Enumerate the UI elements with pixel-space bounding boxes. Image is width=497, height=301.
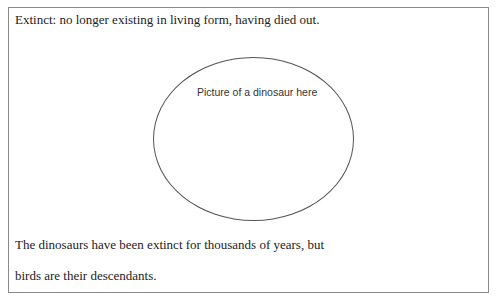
body-text-line-1: The dinosaurs have been extinct for thou… <box>15 237 324 253</box>
picture-placeholder-ellipse <box>153 57 354 221</box>
worksheet-frame: Extinct: no longer existing in living fo… <box>8 7 489 293</box>
definition-text: Extinct: no longer existing in living fo… <box>15 12 319 28</box>
body-text-line-2: birds are their descendants. <box>15 268 157 284</box>
picture-placeholder-label: Picture of a dinosaur here <box>197 86 317 98</box>
